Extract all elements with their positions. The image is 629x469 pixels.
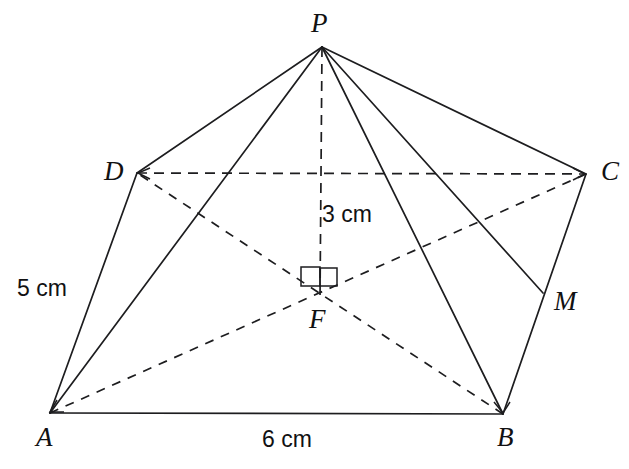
vertex-label-c: C <box>601 158 619 185</box>
edge-endpoint-ticks <box>50 400 510 413</box>
vertex-label-f: F <box>309 306 326 333</box>
dimension-label-height: 3 cm <box>322 203 372 226</box>
vertex-label-d: D <box>104 158 124 185</box>
vertex-label-p: P <box>311 10 328 37</box>
pyramid-height-pf <box>320 47 322 300</box>
tick-at-b <box>494 402 510 413</box>
base-diagonal-ac <box>50 174 586 413</box>
slant-height-pm <box>322 47 543 293</box>
lateral-edge-pb <box>322 47 503 414</box>
hidden-edges-group <box>50 47 586 414</box>
lateral-edge-pc <box>322 47 586 174</box>
visible-edges-group <box>50 47 586 414</box>
geometry-figure: P D C A B M F 3 cm 5 cm 6 cm <box>0 0 629 469</box>
pyramid-diagram-canvas <box>0 0 629 469</box>
base-edge-ab <box>50 413 503 414</box>
vertex-label-b: B <box>497 424 514 451</box>
base-edge-dc-hidden <box>137 173 586 174</box>
vertex-label-m: M <box>554 288 577 315</box>
dimension-label-base: 6 cm <box>262 428 312 451</box>
dimension-label-slant-edge: 5 cm <box>17 277 67 300</box>
right-angle-marks-group <box>301 267 337 286</box>
lateral-edge-pa <box>50 47 322 413</box>
vertex-label-a: A <box>36 424 53 451</box>
right-angle-mark-right <box>320 268 337 286</box>
lateral-edge-pd <box>137 47 322 173</box>
